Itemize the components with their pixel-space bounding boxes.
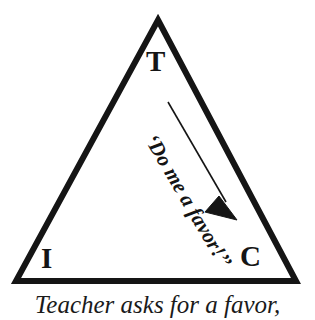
vertex-label-c: C bbox=[240, 242, 261, 271]
vertex-label-i: I bbox=[41, 244, 52, 273]
figure-caption: Teacher asks for a favor, bbox=[0, 291, 315, 319]
vertex-label-teacher: T bbox=[146, 47, 165, 76]
figure-root: T I C ‘Do me a favor!’’ Teacher asks for… bbox=[0, 0, 315, 320]
